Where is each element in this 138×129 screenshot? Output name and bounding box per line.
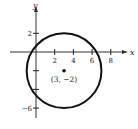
x-axis-arrow bbox=[122, 50, 128, 54]
x-axis-label: x bbox=[130, 48, 135, 57]
y-axis-label: y bbox=[32, 1, 38, 10]
x-tick-label: 2 bbox=[52, 57, 56, 65]
y-tick-label: −6 bbox=[22, 105, 33, 113]
x-tick-label: 6 bbox=[90, 57, 95, 65]
circle-graph: x y 24682−6 (3, −2) bbox=[0, 0, 138, 129]
x-tick-label: 4 bbox=[71, 57, 76, 65]
x-tick-label: 8 bbox=[109, 57, 113, 65]
center-point bbox=[62, 69, 66, 73]
y-tick-label: 2 bbox=[28, 30, 32, 38]
center-point-label: (3, −2) bbox=[51, 75, 78, 84]
